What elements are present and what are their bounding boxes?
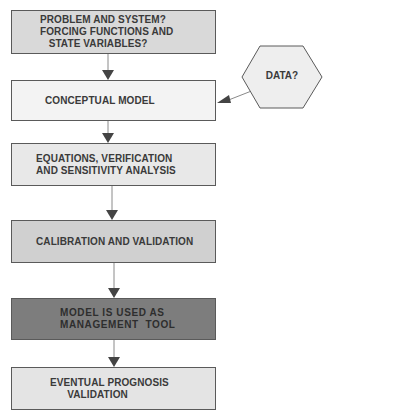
flow-box-calibration: CALIBRATION AND VALIDATION	[11, 220, 216, 263]
box-label-line: EQUATIONS, VERIFICATION	[36, 153, 215, 165]
box-label-line: MODEL IS USED AS	[60, 307, 215, 319]
flow-box-problem: PROBLEM AND SYSTEM?FORCING FUNCTIONS AND…	[11, 10, 216, 54]
box-label-line: STATE VARIABLES?	[40, 38, 215, 50]
flow-box-equations: EQUATIONS, VERIFICATIONAND SENSITIVITY A…	[11, 143, 216, 186]
data-node-label: DATA?	[242, 70, 322, 81]
connector-data-conceptual	[226, 90, 254, 101]
arrowhead-down-icon	[108, 288, 120, 298]
box-label-line: EVENTUAL PROGNOSIS	[50, 377, 215, 389]
arrowhead-left-icon	[217, 95, 231, 103]
arrowhead-down-icon	[106, 210, 118, 220]
box-label-line: AND SENSITIVITY ANALYSIS	[36, 165, 215, 177]
flow-box-prognosis: EVENTUAL PROGNOSIS VALIDATION	[11, 367, 216, 410]
arrowhead-down-icon	[102, 70, 114, 80]
box-label-line: CALIBRATION AND VALIDATION	[36, 236, 215, 248]
flow-box-conceptual: CONCEPTUAL MODEL	[11, 80, 216, 121]
arrowhead-down-icon	[102, 133, 114, 143]
box-label-line: CONCEPTUAL MODEL	[45, 95, 215, 107]
connectors-layer	[0, 0, 398, 416]
flow-box-management: MODEL IS USED ASMANAGEMENT TOOL	[11, 298, 216, 340]
box-label-line: VALIDATION	[50, 389, 215, 401]
box-label-line: FORCING FUNCTIONS AND	[40, 26, 215, 38]
arrowhead-down-icon	[108, 357, 120, 367]
box-label-line: MANAGEMENT TOOL	[60, 319, 215, 331]
box-label-line: PROBLEM AND SYSTEM?	[40, 14, 215, 26]
